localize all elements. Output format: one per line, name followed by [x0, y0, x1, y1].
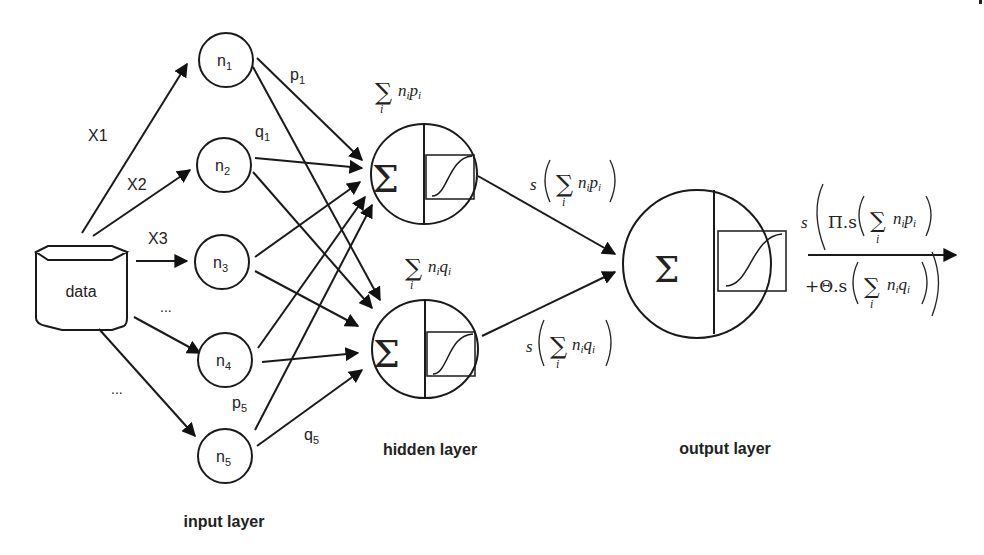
- data-label: data: [65, 283, 96, 300]
- hidden-output-formula-1: s ∑ i nipi: [530, 160, 615, 209]
- svg-text:niqi: niqi: [572, 335, 595, 355]
- svg-text:i: i: [556, 357, 559, 371]
- x2-label: X2: [127, 176, 147, 193]
- input-hidden-connections: [253, 58, 380, 446]
- x1-label: X1: [88, 127, 108, 144]
- arrow-x4: [134, 317, 200, 353]
- data-source-cylinder: data: [36, 246, 127, 330]
- svg-text:∑: ∑: [870, 208, 886, 233]
- hidden-input-formula-2: ∑ i niqi: [405, 254, 451, 292]
- svg-text:∑: ∑: [864, 274, 880, 299]
- input-layer-label: input layer: [184, 513, 265, 530]
- svg-text:niqi: niqi: [428, 257, 451, 277]
- svg-text:i: i: [562, 195, 565, 209]
- hidden-node-2: Σ: [372, 300, 478, 398]
- x4-label: ...: [160, 299, 172, 315]
- svg-text:nipi: nipi: [893, 209, 916, 229]
- weight-q1: q1: [255, 123, 270, 143]
- weight-p5: p5: [232, 394, 247, 414]
- output-layer-label: output layer: [679, 440, 771, 457]
- sum-symbol: Σ: [373, 332, 400, 376]
- final-output-formula: s Π.s ∑ i nipi +Θ.s ∑ i niqi: [801, 184, 939, 316]
- hidden-node-1: Σ: [371, 124, 477, 224]
- svg-text:∑: ∑: [405, 254, 422, 282]
- svg-text:nipi: nipi: [578, 173, 601, 193]
- input-node-n3: n3: [195, 235, 249, 289]
- svg-text:∑: ∑: [550, 332, 567, 360]
- svg-text:s: s: [526, 337, 533, 356]
- x3-label: X3: [148, 230, 168, 247]
- sum-symbol: Σ: [654, 249, 679, 290]
- neural-network-diagram: data X1 X2 X3 ... ... p1 q1 p5 q5: [0, 0, 984, 555]
- corner-mark: [979, 0, 982, 4]
- weight-p1: p1: [290, 66, 305, 86]
- weight-q5: q5: [304, 426, 319, 446]
- hidden-layer-label: hidden layer: [383, 441, 477, 458]
- svg-text:i: i: [870, 297, 873, 311]
- svg-text:nipi: nipi: [398, 81, 421, 101]
- svg-text:s: s: [801, 213, 808, 232]
- svg-text:s: s: [530, 175, 537, 194]
- hidden-output-formula-2: s ∑ i niqi: [526, 320, 611, 371]
- svg-text:i: i: [876, 232, 879, 246]
- input-nodes: n1 n2 n3 n4 n5: [195, 33, 253, 483]
- input-node-n2: n2: [197, 138, 251, 192]
- svg-text:i: i: [380, 102, 383, 116]
- svg-text:+Θ.s: +Θ.s: [805, 276, 847, 296]
- input-node-n1: n1: [199, 33, 253, 87]
- hidden-input-formula-1: ∑ i nipi: [375, 78, 421, 116]
- svg-text:∑: ∑: [556, 170, 573, 198]
- svg-text:niqi: niqi: [887, 275, 910, 295]
- sum-symbol: Σ: [372, 157, 399, 201]
- input-node-n4: n4: [198, 333, 252, 387]
- svg-text:∑: ∑: [375, 78, 392, 106]
- svg-text:i: i: [410, 278, 413, 292]
- output-node: Σ: [623, 190, 786, 338]
- x5-label: ...: [111, 381, 123, 397]
- hidden-output-connections: [478, 176, 615, 336]
- svg-text:Π.s: Π.s: [828, 212, 857, 232]
- input-node-n5: n5: [198, 429, 252, 483]
